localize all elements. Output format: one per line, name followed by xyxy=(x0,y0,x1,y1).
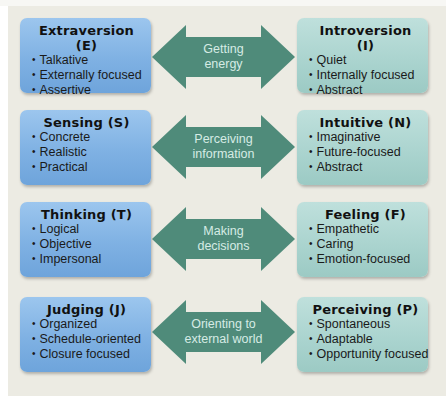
trait-item: Practical xyxy=(32,160,145,175)
trait-item: Assertive xyxy=(32,83,145,98)
arrow-label: Perceiving information xyxy=(150,132,297,162)
trait-item: Schedule-oriented xyxy=(32,332,145,347)
arrow-label: Getting energy xyxy=(150,42,297,72)
trait-item: Opportunity focused xyxy=(309,347,422,362)
trait-list: Spontaneous Adaptable Opportunity focuse… xyxy=(309,317,422,362)
trait-item: Concrete xyxy=(32,130,145,145)
arrow-label-line: external world xyxy=(150,332,297,347)
trait-list: Empathetic Caring Emotion-focused xyxy=(309,222,422,267)
double-arrow: Getting energy xyxy=(150,25,297,89)
sensing-box: Sensing (S) Concrete Realistic Practical xyxy=(20,110,151,185)
trait-item: Abstract xyxy=(309,83,422,98)
trait-list: Talkative Externally focused Assertive xyxy=(32,53,145,98)
trait-item: Talkative xyxy=(32,53,145,68)
trait-item: Internally focused xyxy=(309,68,422,83)
box-title: Sensing (S) xyxy=(32,115,145,130)
double-arrow: Making decisions xyxy=(150,207,297,271)
box-title: Perceiving (P) xyxy=(309,302,422,317)
trait-item: Closure focused xyxy=(32,347,145,362)
box-title: Thinking (T) xyxy=(32,207,145,222)
trait-list: Quiet Internally focused Abstract xyxy=(309,53,422,98)
double-arrow: Orienting to external world xyxy=(150,300,297,364)
box-title: Extraversion (E) xyxy=(32,23,145,53)
trait-item: Spontaneous xyxy=(309,317,422,332)
arrow-label-line: Making xyxy=(150,224,297,239)
trait-item: Realistic xyxy=(32,145,145,160)
row-decisions: Thinking (T) Logical Objective Impersona… xyxy=(0,202,446,280)
row-information: Sensing (S) Concrete Realistic Practical… xyxy=(0,110,446,188)
extraversion-box: Extraversion (E) Talkative Externally fo… xyxy=(20,18,151,93)
intuitive-box: Intuitive (N) Imaginative Future-focused… xyxy=(297,110,428,185)
trait-item: Imaginative xyxy=(309,130,422,145)
box-title: Introversion (I) xyxy=(309,23,422,53)
feeling-box: Feeling (F) Empathetic Caring Emotion-fo… xyxy=(297,202,428,277)
trait-list: Logical Objective Impersonal xyxy=(32,222,145,267)
trait-list: Organized Schedule-oriented Closure focu… xyxy=(32,317,145,362)
trait-item: Emotion-focused xyxy=(309,252,422,267)
box-title: Intuitive (N) xyxy=(309,115,422,130)
arrow-label-line: decisions xyxy=(150,239,297,254)
trait-item: Future-focused xyxy=(309,145,422,160)
trait-item: Externally focused xyxy=(32,68,145,83)
trait-item: Organized xyxy=(32,317,145,332)
arrow-label-line: Orienting to xyxy=(150,317,297,332)
trait-item: Abstract xyxy=(309,160,422,175)
trait-item: Impersonal xyxy=(32,252,145,267)
perceiving-box: Perceiving (P) Spontaneous Adaptable Opp… xyxy=(297,297,428,372)
arrow-label-line: Getting xyxy=(150,42,297,57)
arrow-label-line: information xyxy=(150,147,297,162)
arrow-label: Making decisions xyxy=(150,224,297,254)
thinking-box: Thinking (T) Logical Objective Impersona… xyxy=(20,202,151,277)
trait-item: Objective xyxy=(32,237,145,252)
arrow-label: Orienting to external world xyxy=(150,317,297,347)
row-energy: Extraversion (E) Talkative Externally fo… xyxy=(0,18,446,96)
trait-item: Adaptable xyxy=(309,332,422,347)
box-title: Judging (J) xyxy=(32,302,145,317)
trait-item: Empathetic xyxy=(309,222,422,237)
row-orientation: Judging (J) Organized Schedule-oriented … xyxy=(0,297,446,375)
arrow-label-line: Perceiving xyxy=(150,132,297,147)
trait-item: Quiet xyxy=(309,53,422,68)
trait-list: Concrete Realistic Practical xyxy=(32,130,145,175)
trait-item: Logical xyxy=(32,222,145,237)
double-arrow: Perceiving information xyxy=(150,115,297,179)
arrow-label-line: energy xyxy=(150,57,297,72)
introversion-box: Introversion (I) Quiet Internally focuse… xyxy=(297,18,428,93)
box-title: Feeling (F) xyxy=(309,207,422,222)
trait-list: Imaginative Future-focused Abstract xyxy=(309,130,422,175)
judging-box: Judging (J) Organized Schedule-oriented … xyxy=(20,297,151,372)
trait-item: Caring xyxy=(309,237,422,252)
